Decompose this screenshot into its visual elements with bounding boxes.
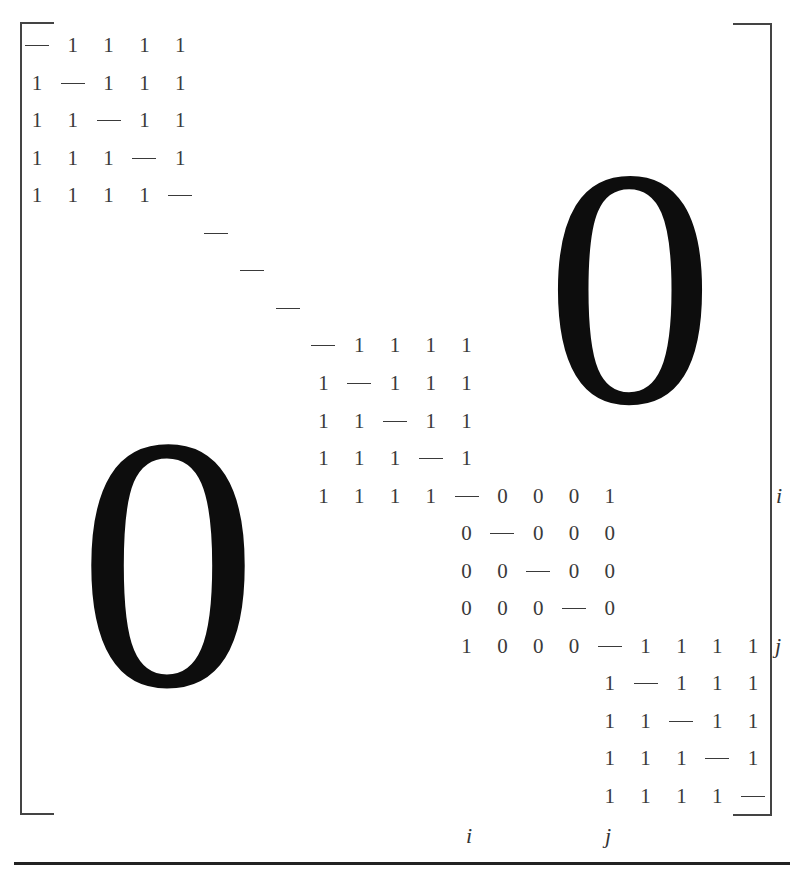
big-zero-lower-left: 0	[58, 382, 278, 744]
matrix-entry: 0	[559, 518, 589, 548]
matrix-entry: 1	[308, 443, 338, 473]
matrix-entry: 1	[94, 30, 124, 60]
matrix-entry: 1	[129, 180, 159, 210]
matrix-entry: 0	[523, 631, 553, 661]
matrix-entry: 1	[416, 368, 446, 398]
matrix-entry: 0	[523, 481, 553, 511]
matrix-entry: 0	[487, 593, 517, 623]
matrix-entry: 1	[308, 406, 338, 436]
matrix-entry: 1	[129, 30, 159, 60]
matrix-entry: 1	[738, 668, 768, 698]
matrix-entry: 1	[738, 631, 768, 661]
matrix-entry: 0	[452, 593, 482, 623]
matrix-entry: 0	[595, 518, 625, 548]
matrix-entry: 0	[487, 481, 517, 511]
matrix-entry: 0	[559, 631, 589, 661]
matrix-entry: 1	[165, 105, 195, 135]
matrix-entry: 0	[595, 593, 625, 623]
matrix-entry: 1	[58, 105, 88, 135]
matrix-entry: 1	[165, 143, 195, 173]
matrix-entry: 1	[702, 706, 732, 736]
diagonal-dash	[204, 233, 228, 234]
matrix-entry: 1	[666, 781, 696, 811]
matrix-entry: 0	[523, 593, 553, 623]
matrix-entry: 1	[631, 706, 661, 736]
diagonal-dash	[168, 195, 192, 196]
matrix-entry: 1	[129, 68, 159, 98]
matrix-entry: 1	[22, 143, 52, 173]
diagonal-dash	[383, 421, 407, 422]
matrix-entry: 0	[559, 481, 589, 511]
matrix-entry: 1	[738, 743, 768, 773]
matrix-entry: 1	[666, 743, 696, 773]
matrix-entry: 1	[595, 743, 625, 773]
matrix-entry: 0	[487, 556, 517, 586]
matrix-entry: 1	[344, 443, 374, 473]
matrix-entry: 1	[165, 68, 195, 98]
matrix-entry: 1	[344, 481, 374, 511]
matrix-entry: 1	[58, 143, 88, 173]
matrix-entry: 0	[452, 556, 482, 586]
matrix-entry: 1	[22, 105, 52, 135]
matrix-entry: 1	[380, 443, 410, 473]
matrix-entry: 1	[380, 330, 410, 360]
diagonal-dash	[419, 458, 443, 459]
row-label-i: i	[776, 483, 782, 509]
diagonal-dash	[25, 45, 49, 46]
matrix-entry: 1	[58, 180, 88, 210]
matrix-entry: 1	[308, 481, 338, 511]
matrix-entry: 1	[452, 631, 482, 661]
matrix-entry: 1	[165, 30, 195, 60]
diagonal-dash	[61, 83, 85, 84]
diagonal-dash	[705, 758, 729, 759]
diagonal-dash	[562, 608, 586, 609]
matrix-entry: 1	[595, 781, 625, 811]
matrix-entry: 1	[416, 330, 446, 360]
col-label-j: j	[605, 823, 611, 849]
matrix-entry: 0	[487, 631, 517, 661]
matrix-entry: 1	[416, 406, 446, 436]
matrix-entry: 0	[559, 556, 589, 586]
diagonal-dash	[455, 496, 479, 497]
matrix-entry: 1	[344, 406, 374, 436]
matrix-entry: 1	[452, 330, 482, 360]
diagonal-dash	[741, 796, 765, 797]
matrix-entry: 1	[631, 631, 661, 661]
matrix-entry: 1	[129, 105, 159, 135]
matrix-entry: 1	[595, 706, 625, 736]
matrix-entry: 0	[523, 518, 553, 548]
matrix-entry: 1	[94, 180, 124, 210]
col-label-i: i	[466, 823, 472, 849]
diagonal-dash	[97, 120, 121, 121]
matrix-entry: 1	[94, 143, 124, 173]
diagonal-dash	[598, 646, 622, 647]
matrix-entry: 0	[595, 556, 625, 586]
matrix-entry: 1	[58, 30, 88, 60]
matrix-entry: 1	[702, 631, 732, 661]
matrix-entry: 1	[308, 368, 338, 398]
matrix-entry: 1	[94, 68, 124, 98]
matrix-entry: 0	[452, 518, 482, 548]
matrix-entry: 1	[416, 481, 446, 511]
matrix-entry: 1	[738, 706, 768, 736]
matrix-entry: 1	[22, 180, 52, 210]
matrix-entry: 1	[702, 668, 732, 698]
diagonal-dash	[132, 158, 156, 159]
big-zero-upper-right: 0	[520, 118, 740, 458]
diagonal-dash	[526, 571, 550, 572]
matrix-entry: 1	[631, 781, 661, 811]
matrix-entry: 1	[452, 368, 482, 398]
left-bracket	[20, 22, 54, 815]
matrix-entry: 1	[380, 368, 410, 398]
matrix-entry: 1	[22, 68, 52, 98]
diagonal-dash	[311, 345, 335, 346]
row-label-j: j	[775, 633, 781, 659]
matrix-entry: 1	[452, 443, 482, 473]
diagonal-dash	[669, 721, 693, 722]
matrix-entry: 1	[380, 481, 410, 511]
diagonal-dash	[276, 308, 300, 309]
matrix-entry: 1	[344, 330, 374, 360]
matrix-entry: 1	[595, 481, 625, 511]
matrix-entry: 1	[452, 406, 482, 436]
matrix-entry: 1	[595, 668, 625, 698]
